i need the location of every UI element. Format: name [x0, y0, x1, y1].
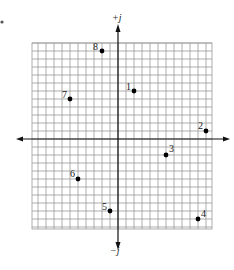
complex-plane-diagram: +j −j 12345678	[0, 0, 234, 270]
point-label: 4	[201, 208, 206, 219]
point-marker	[132, 89, 137, 94]
negative-imaginary-label: −j	[110, 245, 120, 256]
point-label: 7	[62, 89, 67, 100]
point-label: 1	[126, 81, 131, 92]
positive-imaginary-label: +j	[112, 12, 122, 23]
point-marker	[108, 209, 113, 214]
point-label: 5	[102, 201, 107, 212]
point-marker	[204, 129, 209, 134]
problem-mark	[0, 20, 3, 23]
point-label: 3	[169, 143, 174, 154]
point-marker	[68, 97, 73, 102]
point-label: 6	[70, 168, 75, 179]
point-marker	[196, 217, 201, 222]
point-marker	[164, 153, 169, 158]
point-label: 8	[93, 41, 98, 52]
arrow-right-icon	[223, 137, 230, 142]
point-marker	[100, 49, 105, 54]
grid-border	[32, 43, 212, 229]
arrow-up-icon	[116, 24, 121, 32]
grid	[32, 43, 212, 229]
point-marker	[76, 177, 81, 182]
point-label: 2	[198, 120, 203, 131]
arrow-left-icon	[16, 137, 23, 142]
